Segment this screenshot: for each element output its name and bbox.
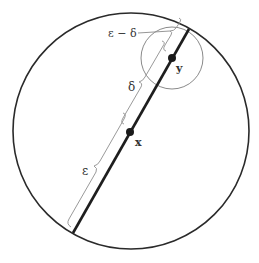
ball-diagram: x y ε δ ε − δ (0, 0, 259, 263)
label-epsilon: ε (82, 164, 88, 178)
point-x-dot (126, 128, 134, 136)
point-y-dot (168, 54, 176, 62)
label-y: y (175, 62, 183, 75)
diagram-canvas: x y ε δ ε − δ (0, 0, 259, 263)
label-delta: δ (128, 80, 135, 94)
brace-epsilon (68, 113, 125, 227)
label-epsilon-minus-delta: ε − δ (108, 27, 137, 40)
label-x: x (135, 136, 142, 149)
